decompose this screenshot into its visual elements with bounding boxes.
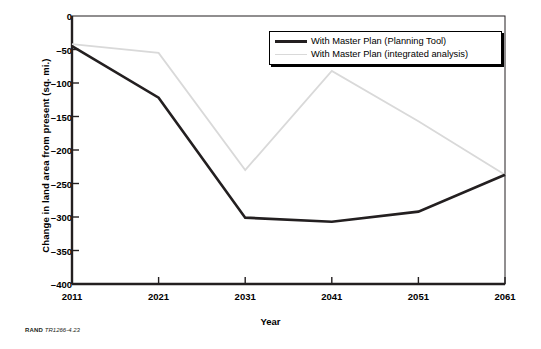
legend-label-integrated-analysis: With Master Plan (integrated analysis) [311,49,468,60]
legend-swatch-planning-tool [275,40,307,43]
legend-label-planning-tool: With Master Plan (Planning Tool) [311,36,446,47]
figure-credit: RAND TR1266-4.23 [25,327,80,333]
x-axis-tick-label: 2051 [408,291,429,302]
x-axis-tick-label: 2011 [62,291,83,302]
x-axis-title: Year [0,316,541,327]
figure-credit-prefix: RAND [25,327,43,333]
x-axis-tick-label: 2021 [148,291,169,302]
figure-container: Change in land area from present (sq. mi… [0,0,541,349]
legend-item-planning-tool: With Master Plan (Planning Tool) [275,35,496,48]
x-axis-tick-label: 2061 [494,291,515,302]
figure-credit-id: TR1266-4.23 [45,327,80,333]
legend-swatch-integrated-analysis [275,54,307,55]
x-axis-tick-label: 2041 [321,291,342,302]
chart-legend: With Master Plan (Planning Tool) With Ma… [269,31,502,65]
legend-item-integrated-analysis: With Master Plan (integrated analysis) [275,48,496,61]
x-axis-tick-label: 2031 [235,291,256,302]
